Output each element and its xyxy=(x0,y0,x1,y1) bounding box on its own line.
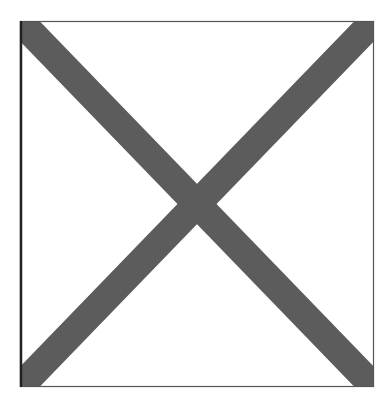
canvas xyxy=(0,0,388,401)
broken-image-placeholder xyxy=(0,0,388,401)
